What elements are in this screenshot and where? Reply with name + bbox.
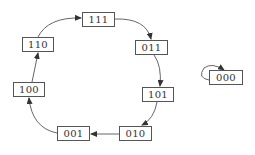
arrow-111-to-011 — [115, 19, 151, 39]
state-label: 110 — [28, 40, 48, 50]
arrow-011-to-101 — [154, 55, 160, 86]
state-110: 110 — [22, 37, 54, 52]
state-000: 000 — [209, 70, 243, 85]
state-label: 001 — [64, 129, 84, 139]
arrow-101-to-010 — [142, 102, 157, 125]
state-label: 111 — [89, 15, 109, 25]
arrow-100-to-110 — [32, 53, 38, 82]
arrow-110-to-111 — [38, 18, 81, 37]
state-111: 111 — [82, 12, 115, 27]
arrow-001-to-100 — [29, 98, 57, 133]
state-label: 101 — [148, 90, 168, 100]
state-label: 011 — [142, 43, 162, 53]
state-100: 100 — [13, 82, 45, 97]
state-001: 001 — [57, 126, 90, 141]
state-011: 011 — [135, 40, 168, 55]
state-101: 101 — [142, 87, 174, 102]
state-diagram: 111 011 101 010 001 100 110 000 — [0, 0, 255, 155]
state-010: 010 — [119, 126, 152, 141]
state-label: 100 — [19, 85, 39, 95]
state-label: 010 — [126, 129, 146, 139]
state-label: 000 — [216, 73, 236, 83]
